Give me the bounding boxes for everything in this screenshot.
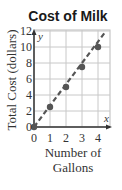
x-tick: 0: [31, 131, 37, 145]
x-axis-label-line: Gallons: [53, 160, 93, 175]
x-tick: 1: [47, 131, 53, 145]
y-tick-labels: 0 2 4 6 8 10 12: [20, 24, 32, 134]
chart-plot: y x 0 2 4 6 8 10 12 0 1 2 3 4 Number of …: [0, 0, 122, 190]
x-axis-letter: x: [103, 112, 109, 124]
y-axis-letter: y: [37, 30, 43, 42]
y-tick: 8: [26, 56, 32, 70]
y-tick: 10: [20, 40, 32, 54]
y-axis-label: Total Cost (dollars): [4, 30, 19, 131]
x-tick: 4: [95, 131, 101, 145]
y-tick: 2: [26, 104, 32, 118]
x-tick-labels: 0 1 2 3 4: [31, 131, 101, 145]
x-tick: 2: [63, 131, 69, 145]
y-tick: 12: [20, 24, 32, 38]
x-axis-label-line: Number of: [45, 145, 102, 160]
data-point: [95, 44, 101, 50]
y-tick: 6: [26, 72, 32, 86]
data-point: [63, 84, 69, 90]
x-axis-label: Number of Gallons: [45, 145, 102, 175]
x-tick: 3: [79, 131, 85, 145]
data-point: [79, 64, 85, 70]
data-point: [47, 104, 53, 110]
y-tick: 4: [26, 88, 32, 102]
